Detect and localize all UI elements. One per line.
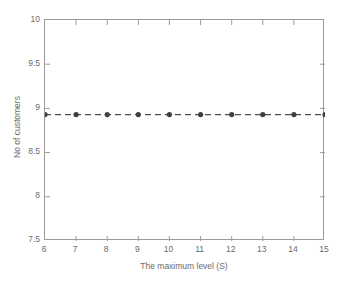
data-point xyxy=(260,112,265,117)
data-point xyxy=(167,112,172,117)
data-point xyxy=(198,112,203,117)
ytick-label-7-5: 7.5 xyxy=(0,235,40,244)
series-no-of-customers xyxy=(45,112,325,117)
data-point xyxy=(45,112,48,117)
data-point xyxy=(105,112,110,117)
xtick-label-10: 10 xyxy=(155,245,181,254)
data-point xyxy=(74,112,79,117)
data-point xyxy=(291,112,296,117)
data-point xyxy=(229,112,234,117)
x-axis-title: The maximum level (S) xyxy=(44,261,324,271)
data-point xyxy=(322,112,325,117)
xtick-label-9: 9 xyxy=(124,245,150,254)
ytick-label-10: 10 xyxy=(0,15,40,24)
xtick-label-14: 14 xyxy=(280,245,306,254)
plot-area xyxy=(44,19,324,240)
xtick-label-11: 11 xyxy=(187,245,213,254)
y-axis-ticks xyxy=(45,64,325,197)
xtick-label-15: 15 xyxy=(311,245,337,254)
xtick-label-8: 8 xyxy=(93,245,119,254)
xtick-label-12: 12 xyxy=(218,245,244,254)
ytick-label-9-5: 9.5 xyxy=(0,59,40,68)
chart-figure: 10 9.5 9 8.5 8 7.5 6 7 8 9 10 11 12 13 1… xyxy=(0,0,347,282)
data-point xyxy=(136,112,141,117)
y-axis-title: No of customers xyxy=(12,77,22,177)
plot-svg xyxy=(45,20,325,241)
x-axis-ticks xyxy=(76,20,294,241)
ytick-label-8: 8 xyxy=(0,191,40,200)
xtick-label-7: 7 xyxy=(62,245,88,254)
xtick-label-13: 13 xyxy=(249,245,275,254)
xtick-label-6: 6 xyxy=(31,245,57,254)
